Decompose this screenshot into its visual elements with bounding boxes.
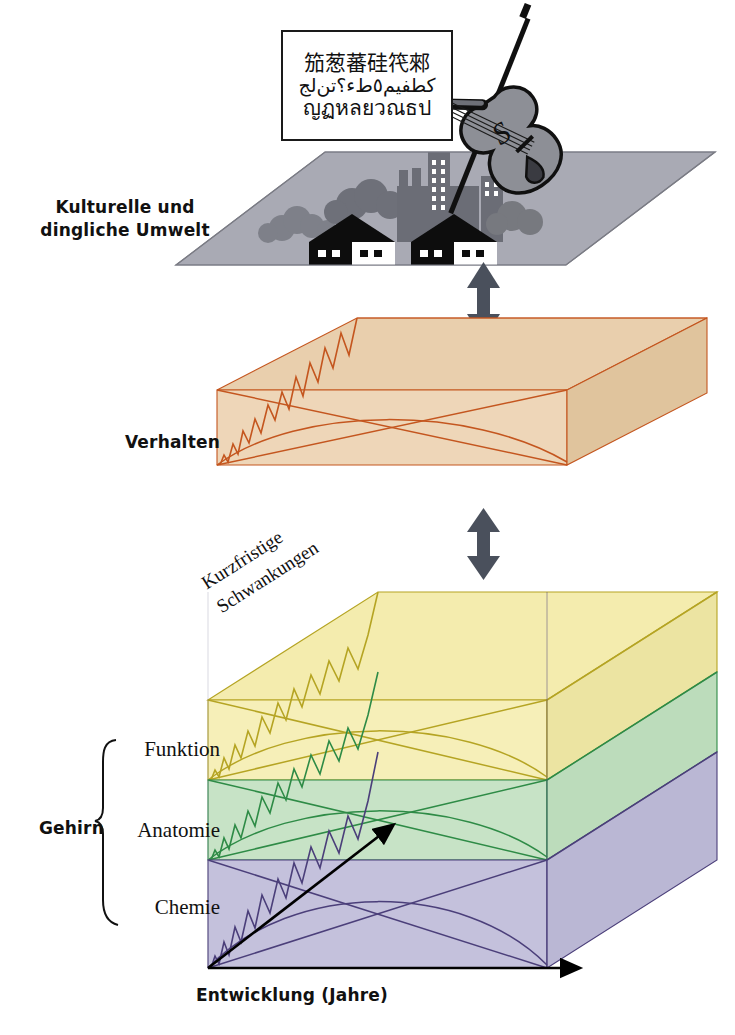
chimney-1	[399, 170, 408, 222]
label-anatomie: Anatomie	[100, 818, 220, 843]
speech-line-chinese: 笳葱蕃硅笩郲	[304, 52, 430, 75]
label-chemie: Chemie	[110, 895, 220, 920]
behaviour-slab	[217, 318, 707, 465]
speech-line-thai: ญฏหลยวณธป	[303, 97, 431, 120]
label-verhalten: Verhalten	[60, 432, 220, 452]
figure-canvas: S	[0, 0, 735, 1035]
label-funktion: Funktion	[110, 737, 220, 762]
label-x-axis: Entwicklung (Jahre)	[196, 985, 388, 1005]
speech-box: 笳葱蕃硅笩郲 ﻛﻄﻔﻴﻢ٥ﻁﺀ؟ﺗﻦﻟﺞ ญฏหลยวณธป	[281, 30, 453, 141]
chimney-2	[412, 168, 421, 222]
environment-plane	[176, 152, 715, 266]
label-umwelt: Kulturelle und dingliche Umwelt	[30, 196, 220, 242]
speech-line-arabic: ﻛﻄﻔﻴﻢ٥ﻁﺀ؟ﺗﻦﻟﺞ	[298, 75, 435, 96]
arrow-verhalten-gehirn	[467, 508, 500, 580]
label-gehirn: Gehirn	[8, 818, 104, 838]
